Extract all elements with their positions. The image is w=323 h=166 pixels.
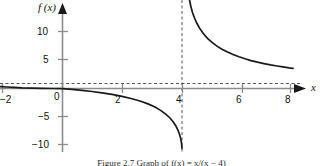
y-tick-label-minus-5: −5 <box>38 112 49 122</box>
y-axis-title: f (x) <box>38 2 56 13</box>
x-tick-label-2: 2 <box>115 95 121 105</box>
x-tick-label-minus-2: −2 <box>0 95 11 105</box>
x-tick-label-8: 8 <box>285 95 291 105</box>
y-axis-arrow <box>58 3 67 14</box>
figure-container: 10 5 0 −5 −10 −2 2 4 6 8 f (x) x Figure … <box>0 0 323 166</box>
x-tick-label-6: 6 <box>236 95 242 105</box>
y-tick-label-5: 5 <box>43 55 49 65</box>
curve-right-branch <box>190 0 294 68</box>
figure-caption: Figure 2.7 Graph of f(x) = x/(x − 4) <box>0 158 323 166</box>
x-tick-label-4: 4 <box>176 95 182 105</box>
y-tick-label-0: 0 <box>54 92 60 102</box>
x-axis-arrow <box>294 84 306 93</box>
y-tick-label-10: 10 <box>37 27 48 37</box>
x-axis-title: x <box>311 82 316 93</box>
curve-left-branch <box>0 87 182 149</box>
y-tick-label-minus-10: −10 <box>32 140 49 150</box>
